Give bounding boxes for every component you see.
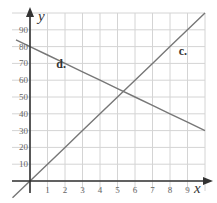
y-tick-label: 60 (19, 75, 29, 85)
y-axis-label: y (36, 8, 45, 24)
y-tick-label: 10 (19, 159, 29, 169)
line-chart: 123456789102030405060708090 x y c. d. (0, 0, 217, 203)
x-tick-label: 6 (133, 185, 138, 195)
series-lines (13, 13, 206, 198)
y-axis-arrow-icon (26, 7, 34, 17)
line-label-c: c. (179, 44, 187, 58)
x-axis-label: x (193, 180, 201, 196)
y-tick-label: 80 (19, 42, 29, 52)
x-tick-label: 3 (80, 185, 85, 195)
y-tick-label: 70 (19, 58, 29, 68)
x-tick-label: 8 (168, 185, 173, 195)
line-label-d: d. (56, 57, 66, 71)
y-tick-label: 30 (19, 126, 29, 136)
x-axis-arrow-icon (203, 177, 213, 185)
x-tick-label: 5 (115, 185, 120, 195)
x-tick-label: 7 (150, 185, 155, 195)
y-tick-label: 50 (19, 92, 29, 102)
x-tick-label: 4 (98, 185, 103, 195)
x-tick-label: 9 (185, 185, 190, 195)
y-tick-label: 40 (19, 109, 29, 119)
grid (12, 13, 205, 191)
series-line-c (13, 13, 206, 198)
y-tick-label: 20 (19, 142, 29, 152)
x-tick-label: 1 (45, 185, 50, 195)
x-tick-label: 2 (63, 185, 68, 195)
series-line-d (16, 40, 205, 131)
y-tick-label: 90 (19, 25, 29, 35)
